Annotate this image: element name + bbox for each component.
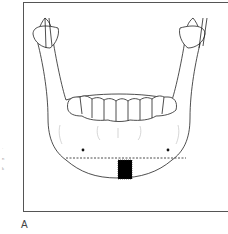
- mental-foramen-left: [82, 149, 85, 152]
- mental-foramen-right: [167, 149, 170, 152]
- graft-block: [118, 160, 132, 179]
- panel-label: A: [21, 219, 28, 230]
- mandible-diagram: [0, 0, 228, 234]
- mandible-outline: [37, 18, 200, 178]
